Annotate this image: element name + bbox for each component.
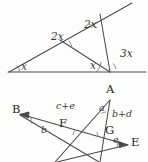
triangle-angle-figure: x 2x 2x x 3x <box>0 0 148 81</box>
upper-ray <box>9 3 132 72</box>
triangle-angle-figure-drawing <box>0 0 148 81</box>
arc-F <box>73 130 75 135</box>
geometry-figure-sheet: x 2x 2x x 3x <box>0 0 148 162</box>
arc-a <box>101 112 106 114</box>
arc-e <box>117 140 118 147</box>
cevian-to-apex <box>100 14 110 72</box>
arc-3x-right <box>113 64 116 70</box>
cevian-to-midpoint <box>60 40 110 72</box>
arc-b <box>31 117 32 124</box>
star-angle-figure: A B E F G a b e c+e b+d <box>0 81 148 162</box>
star-angle-figure-drawing <box>0 81 148 162</box>
arrowhead-E <box>119 142 128 148</box>
